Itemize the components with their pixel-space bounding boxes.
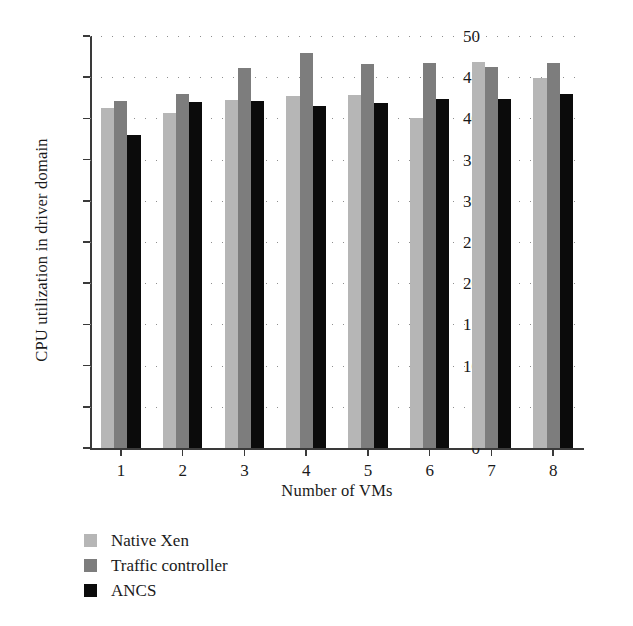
bar	[533, 78, 546, 448]
x-tick-label: 4	[286, 462, 326, 479]
y-tick	[83, 200, 90, 202]
y-axis-title: CPU utilization in driver domain	[32, 90, 52, 410]
bar	[225, 100, 238, 448]
y-tick	[83, 35, 90, 37]
bar	[251, 101, 264, 448]
x-tick-label: 1	[101, 462, 141, 479]
bar	[238, 68, 251, 448]
y-tick-label: 50	[440, 28, 480, 45]
bar	[127, 135, 140, 448]
bar	[472, 62, 485, 448]
x-tick-label: 6	[410, 462, 450, 479]
bar	[101, 108, 114, 448]
bar-chart-figure: CPU utilization in driver domain 0510152…	[0, 0, 633, 626]
y-tick	[83, 324, 90, 326]
legend-item: Traffic controller	[84, 553, 228, 578]
gridline	[90, 77, 584, 78]
x-tick-label: 3	[224, 462, 264, 479]
bar	[176, 94, 189, 448]
y-tick	[83, 365, 90, 367]
y-tick	[83, 447, 90, 449]
legend-swatch-icon	[84, 584, 97, 597]
x-tick	[429, 449, 431, 456]
y-tick	[83, 76, 90, 78]
x-tick	[305, 449, 307, 456]
x-tick	[182, 449, 184, 456]
y-tick	[83, 118, 90, 120]
bar	[300, 53, 313, 448]
bar	[374, 103, 387, 448]
x-tick-label: 7	[471, 462, 511, 479]
y-tick	[83, 406, 90, 408]
legend-swatch-icon	[84, 559, 97, 572]
legend-swatch-icon	[84, 534, 97, 547]
x-axis-title: Number of VMs	[90, 481, 584, 501]
bar	[189, 102, 202, 448]
y-tick	[83, 241, 90, 243]
legend-label: Traffic controller	[111, 557, 228, 574]
y-tick	[83, 282, 90, 284]
bar	[313, 106, 326, 448]
x-tick-label: 2	[163, 462, 203, 479]
gridline	[90, 36, 584, 37]
x-tick-label: 5	[348, 462, 388, 479]
plot-area: 05101520253035404550 12345678	[90, 36, 584, 448]
legend-item: ANCS	[84, 578, 228, 603]
legend-label: ANCS	[111, 582, 156, 599]
x-tick	[244, 449, 246, 456]
x-tick	[552, 449, 554, 456]
x-tick	[120, 449, 122, 456]
bar	[361, 64, 374, 448]
bar	[560, 94, 573, 448]
x-tick	[491, 449, 493, 456]
bar	[286, 96, 299, 448]
bar	[348, 95, 361, 448]
legend-label: Native Xen	[111, 532, 189, 549]
bar	[163, 113, 176, 448]
bar	[114, 101, 127, 448]
x-axis-line	[90, 448, 584, 450]
bar	[485, 67, 498, 448]
y-tick	[83, 159, 90, 161]
x-tick	[367, 449, 369, 456]
bar	[423, 63, 436, 448]
bar	[547, 63, 560, 448]
bar	[410, 118, 423, 448]
bar	[498, 99, 511, 448]
legend: Native XenTraffic controllerANCS	[84, 528, 228, 603]
x-tick-label: 8	[533, 462, 573, 479]
legend-item: Native Xen	[84, 528, 228, 553]
bar	[436, 99, 449, 448]
